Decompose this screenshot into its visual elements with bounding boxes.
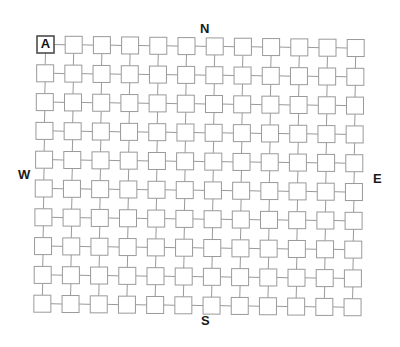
- grid-cell[interactable]: [63, 238, 80, 255]
- grid-cell[interactable]: [93, 65, 110, 82]
- grid-cell[interactable]: [93, 94, 110, 111]
- grid-cell[interactable]: [35, 180, 52, 197]
- grid-cell[interactable]: [262, 125, 279, 142]
- grid-cell[interactable]: [318, 126, 335, 143]
- grid-cell[interactable]: [234, 38, 251, 55]
- grid-cell[interactable]: [290, 68, 307, 85]
- grid-cell[interactable]: [204, 211, 221, 228]
- grid-cell[interactable]: [177, 124, 194, 141]
- grid-cell[interactable]: [233, 125, 250, 142]
- grid-cell[interactable]: [121, 95, 138, 112]
- grid-cell[interactable]: [65, 36, 82, 53]
- grid-cell[interactable]: [261, 154, 278, 171]
- grid-cell[interactable]: [62, 296, 79, 313]
- grid-cell[interactable]: [290, 96, 307, 113]
- grid-cell[interactable]: [92, 123, 109, 140]
- grid-cell[interactable]: [345, 184, 362, 201]
- grid-cell[interactable]: [92, 152, 109, 169]
- grid-cell[interactable]: [288, 240, 305, 257]
- grid-cell[interactable]: [34, 266, 51, 283]
- grid-cell[interactable]: [92, 181, 109, 198]
- grid-cell[interactable]: [289, 212, 306, 229]
- grid-cell[interactable]: [233, 153, 250, 170]
- grid-cell[interactable]: [347, 40, 364, 57]
- grid-cell[interactable]: [289, 154, 306, 171]
- grid-cell[interactable]: [65, 65, 82, 82]
- grid-cell[interactable]: [231, 297, 248, 314]
- grid-cell[interactable]: [344, 270, 361, 287]
- grid-cell[interactable]: [290, 125, 307, 142]
- grid-cell[interactable]: [35, 209, 52, 226]
- grid-cell[interactable]: [318, 154, 335, 171]
- grid-cell[interactable]: [119, 239, 136, 256]
- grid-cell[interactable]: [316, 270, 333, 287]
- grid-cell[interactable]: [206, 38, 223, 55]
- grid-cell[interactable]: [233, 182, 250, 199]
- grid-cell[interactable]: [175, 297, 192, 314]
- grid-cell[interactable]: [91, 209, 108, 226]
- grid-cell[interactable]: [291, 39, 308, 56]
- grid-cell[interactable]: [232, 269, 249, 286]
- grid-cell[interactable]: [65, 94, 82, 111]
- grid-cell[interactable]: [234, 67, 251, 84]
- grid-cell[interactable]: [64, 152, 81, 169]
- grid-cell[interactable]: [288, 269, 305, 286]
- grid-cell[interactable]: [346, 155, 363, 172]
- grid-cell[interactable]: [259, 298, 276, 315]
- grid-cell[interactable]: [178, 66, 195, 83]
- grid-cell[interactable]: [177, 95, 194, 112]
- grid-cell[interactable]: [147, 296, 164, 313]
- grid-cell[interactable]: [148, 210, 165, 227]
- grid-cell[interactable]: [316, 298, 333, 315]
- grid-cell[interactable]: [232, 240, 249, 257]
- grid-cell[interactable]: [93, 37, 110, 54]
- grid-cell[interactable]: [147, 268, 164, 285]
- grid-cell[interactable]: [36, 122, 53, 139]
- grid-cell[interactable]: [318, 97, 335, 114]
- grid-cell[interactable]: [347, 68, 364, 85]
- grid-cell[interactable]: [36, 151, 53, 168]
- grid-cell[interactable]: [120, 210, 137, 227]
- grid-cell[interactable]: [261, 211, 278, 228]
- grid-cell[interactable]: [63, 209, 80, 226]
- grid-cell[interactable]: [122, 37, 139, 54]
- grid-cell[interactable]: [150, 37, 167, 54]
- grid-cell[interactable]: [176, 182, 193, 199]
- grid-cell[interactable]: [149, 124, 166, 141]
- grid-cell[interactable]: [147, 239, 164, 256]
- grid-cell[interactable]: [121, 66, 138, 83]
- grid-cell[interactable]: [63, 180, 80, 197]
- grid-cell[interactable]: [204, 182, 221, 199]
- grid-cell[interactable]: [64, 123, 81, 140]
- grid-cell[interactable]: [121, 123, 138, 140]
- grid-cell[interactable]: [260, 240, 277, 257]
- grid-cell[interactable]: [176, 210, 193, 227]
- grid-cell[interactable]: [319, 39, 336, 56]
- grid-cell[interactable]: [35, 238, 52, 255]
- grid-cell[interactable]: [149, 95, 166, 112]
- grid-cell[interactable]: [119, 267, 136, 284]
- grid-cell[interactable]: [288, 298, 305, 315]
- grid-cell[interactable]: [260, 269, 277, 286]
- grid-cell[interactable]: [232, 211, 249, 228]
- grid-cell[interactable]: [91, 267, 108, 284]
- grid-cell[interactable]: [317, 183, 334, 200]
- grid-cell[interactable]: [345, 212, 362, 229]
- grid-cell[interactable]: [289, 183, 306, 200]
- grid-cell[interactable]: [262, 96, 279, 113]
- grid-cell[interactable]: [262, 67, 279, 84]
- grid-cell[interactable]: [206, 96, 223, 113]
- grid-cell[interactable]: [148, 181, 165, 198]
- grid-cell[interactable]: [148, 152, 165, 169]
- grid-cell[interactable]: [91, 238, 108, 255]
- grid-cell[interactable]: [34, 295, 51, 312]
- grid-cell[interactable]: [319, 68, 336, 85]
- grid-cell[interactable]: [261, 183, 278, 200]
- grid-cell[interactable]: [205, 124, 222, 141]
- grid-cell[interactable]: [234, 96, 251, 113]
- grid-cell[interactable]: [178, 38, 195, 55]
- grid-cell[interactable]: [203, 297, 220, 314]
- grid-cell[interactable]: [345, 241, 362, 258]
- grid-cell[interactable]: [317, 241, 334, 258]
- grid-cell[interactable]: [317, 212, 334, 229]
